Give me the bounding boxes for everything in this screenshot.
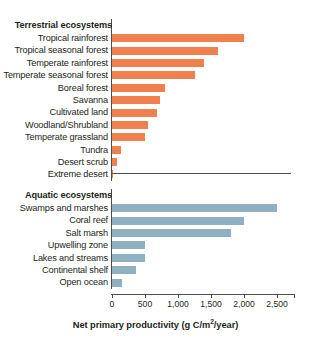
axis-title-main: Net primary productivity (g C/m xyxy=(73,320,210,330)
bar-row-label: Open ocean xyxy=(59,276,108,288)
value-axis: 05001,0001,5002,0002,500 xyxy=(0,294,311,316)
bar-rows-terrestrial: Tropical rainforestTropical seasonal for… xyxy=(0,32,311,181)
bar-terrestrial xyxy=(112,170,113,178)
bar-row-label: Lakes and streams xyxy=(33,252,108,264)
chart-group-terrestrial: Terrestrial ecosystems Tropical rainfore… xyxy=(0,19,311,181)
bar-row-label: Swamps and marshes xyxy=(20,202,108,214)
bar-row-label: Tropical seasonal forest xyxy=(14,44,108,56)
axis-tick-label: 1,500 xyxy=(200,299,222,309)
axis-tick xyxy=(244,294,245,298)
bar-row-label: Temperate seasonal forest xyxy=(3,69,108,81)
bar-aquatic xyxy=(112,241,145,249)
value-axis-line xyxy=(111,294,294,295)
bar-row: Tundra xyxy=(0,144,311,156)
bar-aquatic xyxy=(112,204,277,212)
npp-bar-chart-figure: Terrestrial ecosystems Tropical rainfore… xyxy=(0,0,311,344)
axis-tick xyxy=(211,294,212,298)
chart-group-aquatic: Aquatic ecosystems Swamps and marshesCor… xyxy=(0,189,311,289)
bar-aquatic xyxy=(112,279,122,287)
bar-terrestrial xyxy=(112,47,218,55)
bar-row-label: Desert scrub xyxy=(58,156,108,168)
group-title-aquatic: Aquatic ecosystems xyxy=(25,189,112,201)
bar-aquatic xyxy=(112,266,136,274)
bar-row: Upwelling zone xyxy=(0,239,311,251)
axis-tick-label: 0 xyxy=(110,299,115,309)
bar-aquatic xyxy=(112,217,244,225)
bar-row-label: Tropical rainforest xyxy=(38,32,108,44)
axis-tick-label: 1,000 xyxy=(167,299,189,309)
bar-row-label: Boreal forest xyxy=(58,82,108,94)
group-header-aquatic: Aquatic ecosystems xyxy=(0,189,311,202)
bar-terrestrial xyxy=(112,34,244,42)
bar-terrestrial xyxy=(112,146,121,154)
axis-tick-label: 500 xyxy=(138,299,152,309)
bar-row: Savanna xyxy=(0,94,311,106)
axis-tick xyxy=(277,294,278,298)
bar-row-label: Continental shelf xyxy=(42,264,108,276)
axis-tick xyxy=(145,294,146,298)
bar-terrestrial xyxy=(112,59,204,67)
bar-row-label: Salt marsh xyxy=(66,227,108,239)
axis-tick xyxy=(112,294,113,298)
bar-terrestrial xyxy=(112,133,145,141)
bar-row: Boreal forest xyxy=(0,82,311,94)
bar-terrestrial xyxy=(112,109,157,117)
axis-tick-label: 2,000 xyxy=(233,299,255,309)
bar-row-label: Coral reef xyxy=(69,214,108,226)
group-title-terrestrial: Terrestrial ecosystems xyxy=(15,19,112,31)
axis-title: Net primary productivity (g C/m2/year) xyxy=(0,320,311,330)
bar-row: Woodland/Shrubland xyxy=(0,119,311,131)
bar-rows-aquatic: Swamps and marshesCoral reefSalt marshUp… xyxy=(0,202,311,289)
bar-row: Continental shelf xyxy=(0,264,311,276)
axis-end-tick xyxy=(294,294,295,298)
bar-row: Salt marsh xyxy=(0,227,311,239)
bar-row: Extreme desert xyxy=(0,168,311,180)
axis-tick xyxy=(178,294,179,298)
bar-terrestrial xyxy=(112,71,195,79)
axis-tick-label: 2,500 xyxy=(266,299,288,309)
bar-row-label: Temperate rainforest xyxy=(27,57,108,69)
bar-aquatic xyxy=(112,254,145,262)
bar-row-label: Savanna xyxy=(73,94,108,106)
bar-row: Coral reef xyxy=(0,214,311,226)
bar-row-label: Tundra xyxy=(80,144,108,156)
bar-row-label: Temperate grassland xyxy=(25,131,108,143)
bar-row-label: Extreme desert xyxy=(48,168,108,180)
bar-row: Temperate seasonal forest xyxy=(0,69,311,81)
bar-row: Open ocean xyxy=(0,276,311,288)
section-divider-rule xyxy=(111,173,291,174)
bar-row: Temperate grassland xyxy=(0,131,311,143)
bar-row: Desert scrub xyxy=(0,156,311,168)
bar-row: Lakes and streams xyxy=(0,252,311,264)
bar-row: Tropical rainforest xyxy=(0,32,311,44)
bar-terrestrial xyxy=(112,96,160,104)
axis-title-tail: /year) xyxy=(214,320,239,330)
bar-terrestrial xyxy=(112,84,165,92)
bar-row-label: Cultivated land xyxy=(49,106,108,118)
bar-terrestrial xyxy=(112,158,117,166)
bar-row: Tropical seasonal forest xyxy=(0,44,311,56)
bar-aquatic xyxy=(112,229,231,237)
bar-row: Swamps and marshes xyxy=(0,202,311,214)
group-header-terrestrial: Terrestrial ecosystems xyxy=(0,19,311,32)
bar-terrestrial xyxy=(112,121,148,129)
bar-row-label: Upwelling zone xyxy=(48,239,108,251)
bar-row: Cultivated land xyxy=(0,106,311,118)
bar-row-label: Woodland/Shrubland xyxy=(25,119,108,131)
bar-row: Temperate rainforest xyxy=(0,57,311,69)
